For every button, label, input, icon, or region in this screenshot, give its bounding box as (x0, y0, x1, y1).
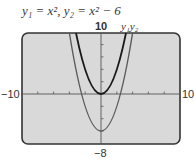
xmax-label: 10 (182, 88, 194, 100)
ymax-label: 10 (95, 20, 107, 32)
ymin-label: −8 (94, 147, 107, 159)
graphing-calculator-plot: −10 10 10 −8 y₁y₂ (0, 0, 194, 165)
legend-label: y₁y₂ (120, 20, 139, 32)
xmin-label: −10 (1, 88, 20, 100)
